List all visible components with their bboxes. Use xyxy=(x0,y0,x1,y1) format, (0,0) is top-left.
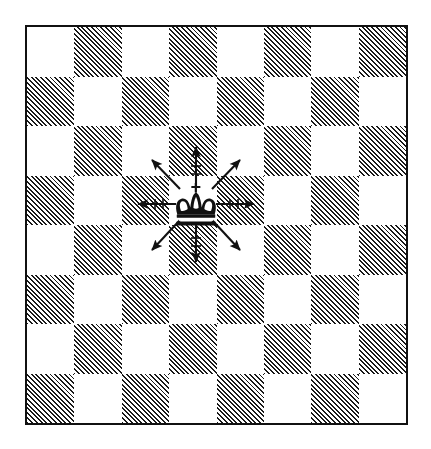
square-r4-c4 xyxy=(217,225,264,275)
square-r5-c4 xyxy=(217,275,264,325)
square-r5-c2 xyxy=(122,275,169,325)
square-r1-c4 xyxy=(217,77,264,127)
square-r3-c6 xyxy=(311,176,358,226)
square-r2-c3 xyxy=(169,126,216,176)
square-r2-c5 xyxy=(264,126,311,176)
square-r4-c1 xyxy=(74,225,121,275)
square-r6-c6 xyxy=(311,324,358,374)
square-r1-c6 xyxy=(311,77,358,127)
square-r5-c6 xyxy=(311,275,358,325)
square-r1-c2 xyxy=(122,77,169,127)
king-crown-band-gap xyxy=(179,219,213,221)
square-r6-c2 xyxy=(122,324,169,374)
square-r0-c1 xyxy=(74,27,121,77)
square-r0-c3 xyxy=(169,27,216,77)
square-r3-c1 xyxy=(74,176,121,226)
king-crown-band-bottom xyxy=(176,222,216,226)
square-r4-c2 xyxy=(122,225,169,275)
square-r3-c2 xyxy=(122,176,169,226)
square-r7-c7 xyxy=(359,374,406,424)
square-r2-c1 xyxy=(74,126,121,176)
king-crown-band-top xyxy=(177,214,215,217)
square-r7-c5 xyxy=(264,374,311,424)
square-r5-c3 xyxy=(169,275,216,325)
square-r6-c1 xyxy=(74,324,121,374)
square-r2-c0 xyxy=(27,126,74,176)
chess-diagram-page xyxy=(0,0,431,449)
square-r1-c0 xyxy=(27,77,74,127)
square-r4-c5 xyxy=(264,225,311,275)
king-cross-horizontal xyxy=(191,186,200,188)
square-r7-c1 xyxy=(74,374,121,424)
square-r4-c0 xyxy=(27,225,74,275)
square-r0-c5 xyxy=(264,27,311,77)
square-r7-c6 xyxy=(311,374,358,424)
square-r0-c6 xyxy=(311,27,358,77)
square-r5-c1 xyxy=(74,275,121,325)
square-r1-c5 xyxy=(264,77,311,127)
square-r1-c3 xyxy=(169,77,216,127)
square-r7-c4 xyxy=(217,374,264,424)
square-r0-c0 xyxy=(27,27,74,77)
square-r6-c3 xyxy=(169,324,216,374)
square-r3-c7 xyxy=(359,176,406,226)
square-r4-c6 xyxy=(311,225,358,275)
square-r7-c2 xyxy=(122,374,169,424)
square-r2-c6 xyxy=(311,126,358,176)
square-r5-c0 xyxy=(27,275,74,325)
square-r3-c5 xyxy=(264,176,311,226)
square-r2-c2 xyxy=(122,126,169,176)
square-r1-c7 xyxy=(359,77,406,127)
square-r5-c5 xyxy=(264,275,311,325)
square-r1-c1 xyxy=(74,77,121,127)
square-r4-c7 xyxy=(359,225,406,275)
square-r7-c3 xyxy=(169,374,216,424)
square-r6-c7 xyxy=(359,324,406,374)
square-r3-c4 xyxy=(217,176,264,226)
square-r6-c5 xyxy=(264,324,311,374)
square-r2-c4 xyxy=(217,126,264,176)
square-r6-c0 xyxy=(27,324,74,374)
square-r5-c7 xyxy=(359,275,406,325)
square-r3-c0 xyxy=(27,176,74,226)
square-r6-c4 xyxy=(217,324,264,374)
piece-black-king xyxy=(170,180,222,232)
square-r0-c2 xyxy=(122,27,169,77)
square-r7-c0 xyxy=(27,374,74,424)
square-r0-c7 xyxy=(359,27,406,77)
square-r2-c7 xyxy=(359,126,406,176)
square-r0-c4 xyxy=(217,27,264,77)
square-r4-c3 xyxy=(169,225,216,275)
